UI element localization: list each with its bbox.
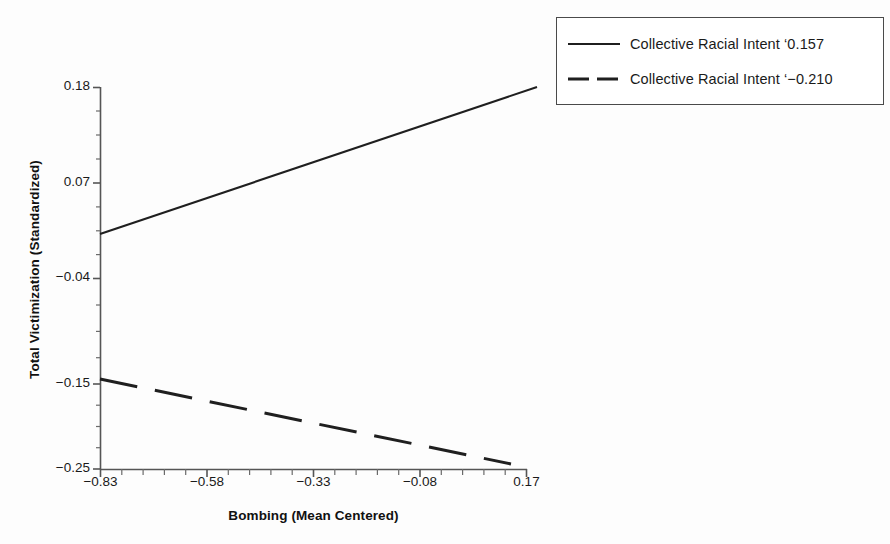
legend-swatch-solid-icon	[568, 37, 620, 51]
chart-legend: Collective Racial Intent ‘0.157 Collecti…	[556, 17, 884, 105]
legend-label: Collective Racial Intent ‘−0.210	[630, 71, 833, 87]
legend-swatch-dashed-icon	[568, 72, 620, 86]
y-tick-label: 0.18	[28, 78, 90, 93]
x-tick-label: 0.17	[482, 474, 572, 489]
chart-figure: 0.18 0.07 −0.04 −0.15 −0.25 −0.83 −0.58 …	[0, 0, 890, 544]
series-line-dashed	[100, 379, 511, 464]
x-tick-label: −0.58	[162, 474, 252, 489]
axis-spines	[100, 87, 527, 470]
y-minor-ticks	[96, 111, 100, 448]
y-major-ticks	[93, 88, 100, 470]
x-tick-label: −0.83	[56, 474, 146, 489]
y-tick-label: −0.25	[28, 460, 90, 475]
series-line-solid	[100, 87, 537, 234]
legend-item-1: Collective Racial Intent ‘−0.210	[557, 64, 883, 94]
legend-item-0: Collective Racial Intent ‘0.157	[557, 29, 883, 59]
x-tick-label: −0.08	[375, 474, 465, 489]
x-axis-title: Bombing (Mean Centered)	[100, 508, 527, 523]
y-axis-title: Total Victimization (Standardized)	[27, 105, 42, 435]
x-tick-label: −0.33	[269, 474, 359, 489]
legend-label: Collective Racial Intent ‘0.157	[630, 36, 824, 52]
